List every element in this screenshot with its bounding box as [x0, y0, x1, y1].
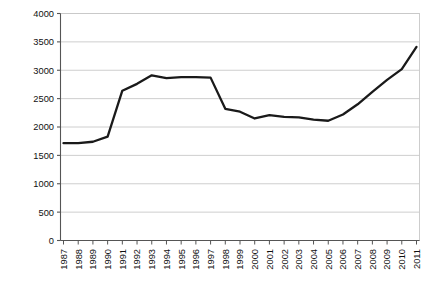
x-axis-tick-label: 2009 [382, 249, 392, 270]
x-axis-ticks [64, 241, 417, 245]
x-axis-tick-label: 2004 [309, 249, 319, 270]
y-axis-tick-label: 1000 [33, 179, 54, 189]
x-axis-tick-label: 2005 [324, 249, 334, 270]
gridlines [61, 14, 420, 241]
x-axis-tick-label: 2006 [338, 249, 348, 270]
x-axis-tick-label: 2001 [265, 249, 275, 270]
x-axis-tick-label: 1993 [147, 249, 157, 270]
x-axis-tick-label: 1988 [74, 249, 84, 270]
x-axis-tick-label: 1997 [206, 249, 216, 270]
x-axis-tick-label: 1992 [132, 249, 142, 270]
y-axis-tick-label: 500 [38, 208, 54, 218]
y-axis-title: $ million [1, 92, 15, 172]
x-axis-tick-label: 1998 [221, 249, 231, 270]
x-axis-tick-label: 2002 [280, 249, 290, 270]
y-axis-tick-label: 1500 [33, 151, 54, 161]
x-axis-tick-label: 2007 [353, 249, 363, 270]
x-axis-tick-label: 1994 [162, 249, 172, 270]
x-axis-tick-labels: 1987198819891990199119921993199419951996… [59, 249, 422, 270]
x-axis-tick-label: 1990 [103, 249, 113, 270]
y-axis-tick-labels: 05001000150020002500300035004000 [33, 9, 54, 246]
series-line-dollar-million [64, 47, 417, 143]
x-axis-tick-label: 2008 [368, 249, 378, 270]
y-axis-tick-label: 0 [49, 236, 54, 246]
y-axis-tick-label: 3000 [33, 66, 54, 76]
x-axis-tick-label: 2011 [412, 249, 422, 269]
y-axis-tick-label: 2000 [33, 122, 54, 132]
x-axis-tick-label: 1995 [177, 249, 187, 270]
x-axis-tick-label: 1991 [118, 249, 128, 270]
line-chart: $ million 050010001500200025003000350040… [0, 0, 436, 289]
data-series-line [64, 47, 417, 143]
x-axis-tick-label: 1987 [59, 249, 69, 270]
x-axis-tick-label: 2000 [250, 249, 260, 270]
x-axis-tick-label: 2010 [397, 249, 407, 270]
y-axis-tick-label: 4000 [33, 9, 54, 19]
chart-canvas: 05001000150020002500300035004000 1987198… [0, 0, 436, 289]
x-axis-tick-label: 2003 [294, 249, 304, 270]
x-axis-tick-label: 1999 [235, 249, 245, 270]
x-axis-tick-label: 1996 [191, 249, 201, 270]
x-axis-tick-label: 1989 [88, 249, 98, 270]
y-axis-tick-label: 2500 [33, 94, 54, 104]
y-axis-tick-label: 3500 [33, 37, 54, 47]
